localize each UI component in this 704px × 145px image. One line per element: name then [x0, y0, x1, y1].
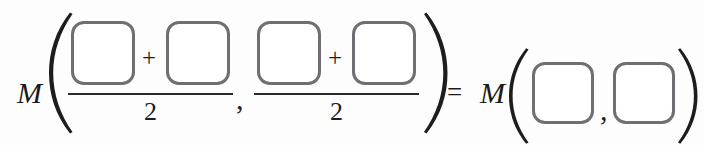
plus-operator-arg1: + — [142, 45, 156, 70]
placeholder-box-arg2-term2[interactable] — [352, 21, 416, 85]
function-name-m-left: M — [17, 78, 42, 108]
denominator-arg1: 2 — [68, 99, 233, 125]
placeholder-box-result-arg1[interactable] — [532, 62, 594, 124]
close-paren-left — [424, 12, 450, 134]
argument-separator-right: , — [600, 95, 608, 125]
close-paren-right — [678, 48, 700, 144]
equals-sign: = — [447, 79, 462, 106]
placeholder-box-arg1-term1[interactable] — [71, 21, 135, 85]
fraction-bar-arg1 — [68, 93, 233, 95]
denominator-arg2: 2 — [254, 99, 419, 125]
placeholder-box-arg2-term1[interactable] — [257, 21, 321, 85]
argument-separator-left: , — [236, 84, 244, 114]
placeholder-box-arg1-term2[interactable] — [166, 21, 230, 85]
fraction-bar-arg2 — [254, 93, 419, 95]
open-paren-right — [509, 48, 531, 144]
plus-operator-arg2: + — [328, 45, 342, 70]
placeholder-box-result-arg2[interactable] — [613, 62, 675, 124]
function-name-m-right: M — [480, 78, 505, 108]
equation-figure: M + 2 , + 2 = M , — [0, 0, 704, 145]
